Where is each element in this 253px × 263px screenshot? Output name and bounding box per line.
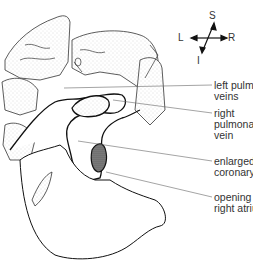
compass-right: R — [228, 32, 235, 43]
compass-superior: S — [209, 10, 216, 21]
opening-right-atrium-shape — [91, 144, 106, 172]
label-enlarged-coronary-sinus: enlarged coronary sinus — [214, 156, 253, 178]
label-opening-to-right-atrium: opening to right atrium — [214, 192, 253, 214]
orientation-compass — [191, 23, 227, 53]
label-left-pulmonary-veins: left pulmonary veins — [214, 80, 253, 102]
label-right-pulmonary-vein: right pulmonary vein — [214, 108, 253, 141]
compass-inferior: I — [197, 55, 200, 66]
compass-left: L — [178, 32, 184, 43]
